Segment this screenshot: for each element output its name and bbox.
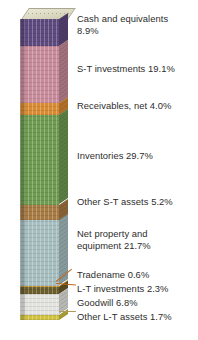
- segment-left-bevel: [20, 294, 25, 314]
- segment-face: [20, 315, 59, 320]
- segment-s-t-investments: [20, 46, 59, 103]
- column-3d: [20, 8, 68, 320]
- segment-receivables-net: [20, 103, 59, 115]
- label-goodwill: Goodwill 6.8%: [77, 297, 138, 309]
- label-st-investments: S-T investments 19.1%: [77, 63, 175, 75]
- segment-face: [20, 19, 59, 46]
- segment-side-texture: [59, 109, 68, 204]
- label-receivables-net: Receivables, net 4.0%: [77, 100, 171, 112]
- segment-face: [20, 115, 59, 204]
- segment-face: [20, 287, 59, 294]
- label-cash-and-equivalents: Cash and equivalents 8.9%: [77, 13, 168, 36]
- segment-inventories: [20, 115, 59, 204]
- segment-other-s-t-assets: [20, 205, 59, 221]
- segment-left-bevel: [20, 220, 25, 285]
- label-other-st-assets: Other S-T assets 5.2%: [77, 196, 173, 208]
- label-lt-investments: L-T investments 2.3%: [77, 283, 169, 295]
- segment-side-face: [59, 40, 68, 104]
- label-inventories: Inventories 29.7%: [77, 150, 153, 162]
- segment-other-l-t-assets: [20, 315, 59, 320]
- segment-face: [20, 294, 59, 314]
- segment-side-texture: [59, 40, 68, 104]
- segment-l-t-investments: [20, 287, 59, 294]
- segment-left-bevel: [20, 46, 25, 103]
- column-stack: [20, 19, 59, 320]
- segment-face: [20, 46, 59, 103]
- segment-goodwill: [20, 294, 59, 314]
- segment-left-bevel: [20, 287, 25, 294]
- segment-cash-and-equivalents: [20, 19, 59, 46]
- segment-left-bevel: [20, 205, 25, 221]
- segment-net-property-and-equipment: [20, 220, 59, 285]
- segment-side-texture: [59, 97, 68, 115]
- segment-left-bevel: [20, 315, 25, 320]
- segment-face: [20, 103, 59, 115]
- label-other-lt-assets: Other L-T assets 1.7%: [77, 311, 172, 323]
- segment-face: [20, 205, 59, 221]
- label-net-property-and-equipment: Net property and equipment 21.7%: [77, 228, 151, 251]
- segment-left-bevel: [20, 115, 25, 204]
- label-tradename: Tradename 0.6%: [77, 269, 149, 281]
- stacked-column-chart: Cash and equivalents 8.9% S-T investment…: [0, 0, 198, 340]
- segment-side-face: [59, 199, 68, 221]
- leader-line-other-lt-assets: [59, 311, 76, 312]
- segment-side-face: [59, 97, 68, 115]
- segment-side-texture: [59, 199, 68, 221]
- segment-face: [20, 220, 59, 285]
- segment-left-bevel: [20, 19, 25, 46]
- segment-left-bevel: [20, 103, 25, 115]
- segment-side-face: [59, 109, 68, 204]
